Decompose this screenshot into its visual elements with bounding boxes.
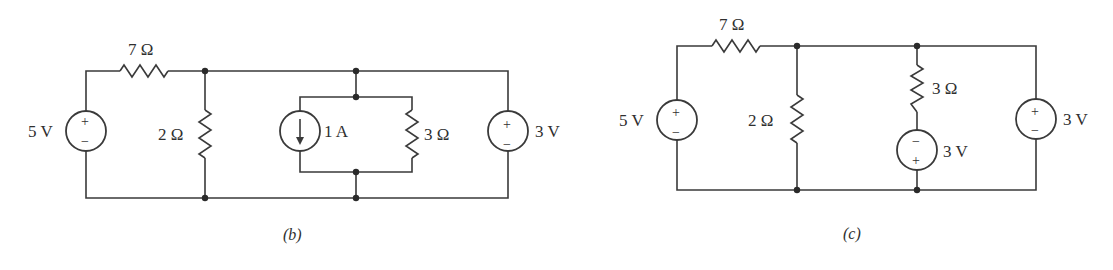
resistor-2ohm-label: 2 Ω	[158, 125, 183, 144]
plus-sign: +	[672, 105, 680, 120]
minus-sign: −	[912, 134, 920, 149]
circuit-b: 7 Ω 2 Ω 3 Ω + − 5 V 1 A + − 3 V (b)	[28, 40, 560, 244]
junction-dot	[353, 94, 359, 100]
caption-c: (c)	[843, 225, 861, 243]
minus-sign: −	[672, 125, 680, 140]
current-source-1a-label: 1 A	[324, 122, 349, 141]
resistor-7ohm-icon	[120, 65, 168, 77]
resistor-3ohm-icon	[911, 65, 923, 112]
minus-sign: −	[1031, 123, 1039, 138]
junction-dot	[914, 43, 920, 49]
minus-sign: −	[503, 137, 511, 152]
plus-sign: +	[912, 153, 920, 168]
resistor-3ohm-label: 3 Ω	[932, 79, 957, 98]
junction-dot	[353, 195, 359, 201]
resistor-2ohm-icon	[791, 95, 803, 143]
plus-sign: +	[503, 117, 511, 132]
resistor-7ohm-icon	[712, 40, 760, 52]
resistor-3ohm-label: 3 Ω	[424, 125, 449, 144]
junction-dot	[202, 195, 208, 201]
plus-sign: +	[1031, 104, 1039, 119]
voltage-source-3v-branch-label: 3 V	[943, 142, 968, 161]
junction-dot	[353, 169, 359, 175]
resistor-7ohm-label: 7 Ω	[719, 15, 744, 34]
junction-dot	[794, 187, 800, 193]
voltage-source-5v-label: 5 V	[619, 111, 644, 130]
caption-b: (b)	[283, 226, 302, 244]
circuit-diagrams: 7 Ω 2 Ω 3 Ω + − 5 V 1 A + − 3 V (b)	[0, 0, 1113, 270]
resistor-7ohm-label: 7 Ω	[128, 40, 153, 59]
resistor-2ohm-label: 2 Ω	[748, 111, 773, 130]
junction-dot	[353, 68, 359, 74]
voltage-source-3v-right-label: 3 V	[1063, 110, 1088, 129]
plus-sign: +	[81, 114, 89, 129]
voltage-source-5v-label: 5 V	[28, 122, 53, 141]
voltage-source-3v-label: 3 V	[535, 122, 560, 141]
junction-dot	[202, 68, 208, 74]
minus-sign: −	[81, 134, 89, 149]
circuit-c: 7 Ω 2 Ω 3 Ω + − 5 V − + 3 V + − 3 V (c)	[619, 15, 1088, 243]
wire	[677, 46, 1036, 190]
junction-dot	[794, 43, 800, 49]
junction-dot	[914, 187, 920, 193]
resistor-3ohm-icon	[406, 110, 418, 158]
resistor-2ohm-icon	[199, 110, 211, 158]
